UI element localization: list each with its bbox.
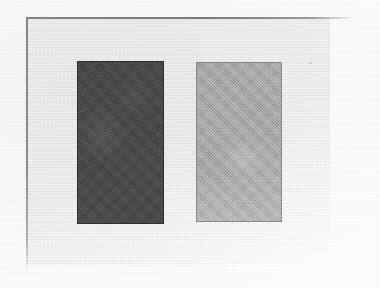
- bar-light: [196, 62, 282, 222]
- figure-panel: [27, 18, 330, 265]
- bar-dark: [77, 61, 164, 224]
- scanned-figure-page: [0, 0, 380, 288]
